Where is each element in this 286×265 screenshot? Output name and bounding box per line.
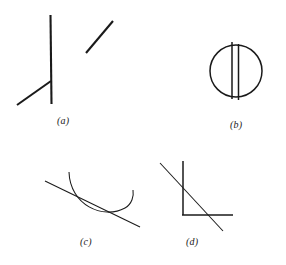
figure-c-straight-diagonal-line	[45, 181, 140, 227]
figure-c-group	[45, 172, 140, 227]
figure-a-detached-diagonal-segment	[86, 21, 113, 53]
figure-d-caption: (d)	[186, 236, 198, 247]
figure-a-caption: (a)	[57, 115, 69, 126]
figure-b-circle-outline	[210, 45, 262, 97]
figure-a-vertical-line	[51, 15, 52, 104]
figure-a-oblique-line	[17, 81, 51, 105]
line-drawing-canvas	[0, 0, 286, 265]
figure-b-group	[210, 42, 262, 100]
figure-d-diagonal-line	[160, 163, 223, 231]
figure-c-caption: (c)	[80, 236, 92, 247]
figure-c-u-shaped-arc	[69, 172, 133, 212]
figure-b-caption: (b)	[230, 119, 242, 130]
figure-d-group	[160, 161, 233, 231]
figure-a-group	[17, 15, 113, 105]
figure-panel: (a) (b) (c) (d)	[0, 0, 286, 265]
